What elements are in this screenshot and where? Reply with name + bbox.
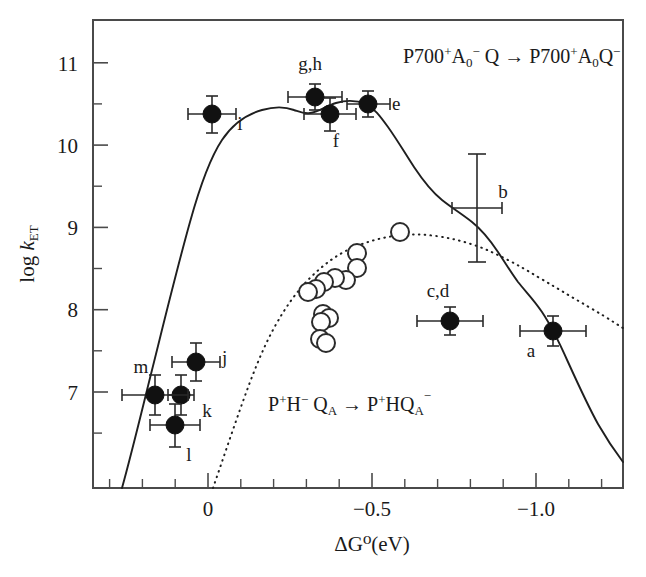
svg-text:P700+A0− Q → P700+A0Q−: P700+A0− Q → P700+A0Q−: [403, 44, 620, 70]
fitted-curves: [122, 101, 623, 488]
data-point-open: [299, 283, 317, 301]
y-tick-label: 9: [68, 216, 79, 240]
data-point-l: l: [150, 404, 200, 465]
point-label-k: k: [202, 400, 212, 421]
point-label-f: f: [333, 130, 340, 151]
y-tick-label: 10: [57, 134, 78, 158]
point-label-e: e: [392, 93, 400, 114]
y-axis-ticks: [93, 63, 108, 433]
data-point-open: [391, 223, 409, 241]
annotation-reaction-top: P700+A0− Q → P700+A0Q−: [403, 44, 620, 70]
point-label-l: l: [186, 444, 191, 465]
x-axis-title-text: ΔG⁰(eV): [334, 532, 410, 556]
y-axis-title: log kET: [15, 225, 41, 282]
scatter-plot: 11 10 9 8 7 0 −0.5 −1.0 ΔG⁰(eV) log kET: [0, 0, 646, 577]
x-tick-label: 0: [203, 497, 214, 521]
x-tick-label: −1.0: [517, 497, 555, 521]
solid-curve: [122, 101, 623, 488]
open-circle-points: [299, 223, 409, 352]
point-label-cd: c,d: [427, 280, 450, 301]
data-point-gh: g,h: [288, 53, 342, 110]
point-label-j: j: [221, 347, 227, 368]
data-point-open: [317, 334, 335, 352]
data-point-b: b: [452, 154, 508, 262]
data-point-f: f: [304, 98, 356, 151]
data-point-e: e: [347, 91, 400, 117]
y-tick-label: 7: [68, 381, 79, 405]
data-point-m: m: [122, 356, 188, 415]
figure-container: 11 10 9 8 7 0 −0.5 −1.0 ΔG⁰(eV) log kET: [0, 0, 646, 577]
x-axis-title: ΔG⁰(eV): [334, 532, 410, 556]
y-tick-label: 11: [58, 52, 78, 76]
x-axis-ticks: [110, 473, 602, 488]
annotation-reaction-bottom: P+H− QA → P+HQA−: [268, 388, 431, 418]
data-point-i: i: [188, 96, 243, 134]
data-point-open: [312, 313, 330, 331]
point-label-gh: g,h: [298, 53, 322, 74]
y-tick-label: 8: [68, 298, 79, 322]
point-label-b: b: [498, 181, 508, 202]
svg-text:P+H− QA → P+HQA−: P+H− QA → P+HQA−: [268, 388, 431, 418]
y-axis-tick-labels: 11 10 9 8 7: [57, 52, 78, 405]
x-axis-tick-labels: 0 −0.5 −1.0: [203, 497, 555, 521]
dotted-curve: [213, 235, 623, 489]
data-point-cd: c,d: [417, 280, 483, 335]
point-label-i: i: [237, 113, 242, 134]
point-label-a: a: [527, 340, 536, 361]
x-tick-label: −0.5: [353, 497, 391, 521]
point-label-m: m: [134, 356, 149, 377]
data-point-a: a: [520, 316, 586, 361]
